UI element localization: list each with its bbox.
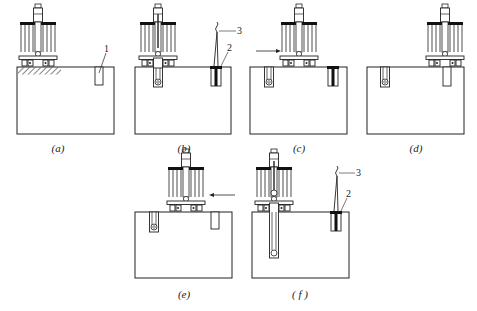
caption-e: (e) [178, 288, 191, 301]
panel-d: (d) [367, 4, 464, 155]
hole-slot [95, 67, 103, 85]
drill-rig-icon [280, 4, 318, 66]
leader-line-2 [341, 198, 347, 211]
callout-3: 3 [356, 167, 361, 178]
drill-rig-icon [19, 4, 57, 66]
hook-icon [336, 166, 339, 176]
callout-2: 2 [346, 188, 351, 199]
empty-hole [443, 67, 451, 86]
diagram-canvas: 1 (a) 3 2 (b) (c) (d) [0, 0, 477, 311]
arrow-head-icon [276, 49, 281, 53]
arrow-head-icon [209, 193, 214, 197]
panel-f: 3 2 ( f ) [252, 149, 361, 301]
leader-line-2 [221, 52, 228, 66]
panel-e: (e) [135, 149, 235, 301]
cable [217, 32, 218, 66]
caption-d: (d) [410, 142, 423, 155]
drill-rig-icon [426, 4, 464, 66]
cable [337, 176, 338, 211]
drill-bit-icon [271, 250, 277, 256]
drilled-hole-icon [381, 67, 390, 87]
drilled-hole-icon [154, 67, 163, 87]
drilled-hole-icon [150, 212, 159, 232]
rod-ring [271, 190, 277, 196]
rod-collar [154, 58, 163, 68]
callout-2: 2 [227, 42, 232, 53]
casing-icon [210, 66, 222, 86]
hatched-ground [18, 68, 61, 75]
panel-c: (c) [250, 4, 347, 155]
callout-1: 1 [104, 43, 109, 54]
hook-icon [216, 22, 219, 32]
panel-a: 1 (a) [17, 4, 114, 155]
casing-icon [327, 66, 339, 86]
caption-f: ( f ) [292, 288, 308, 301]
caption-c: (c) [293, 142, 306, 155]
cable [334, 176, 337, 211]
casing-icon [330, 211, 342, 231]
drilled-hole-icon [265, 67, 274, 87]
empty-hole [211, 212, 219, 229]
callout-3: 3 [237, 25, 242, 36]
caption-a: (a) [52, 142, 65, 155]
cable [214, 32, 217, 66]
drill-rig-icon [167, 149, 205, 211]
panel-b: 3 2 (b) [135, 4, 242, 155]
